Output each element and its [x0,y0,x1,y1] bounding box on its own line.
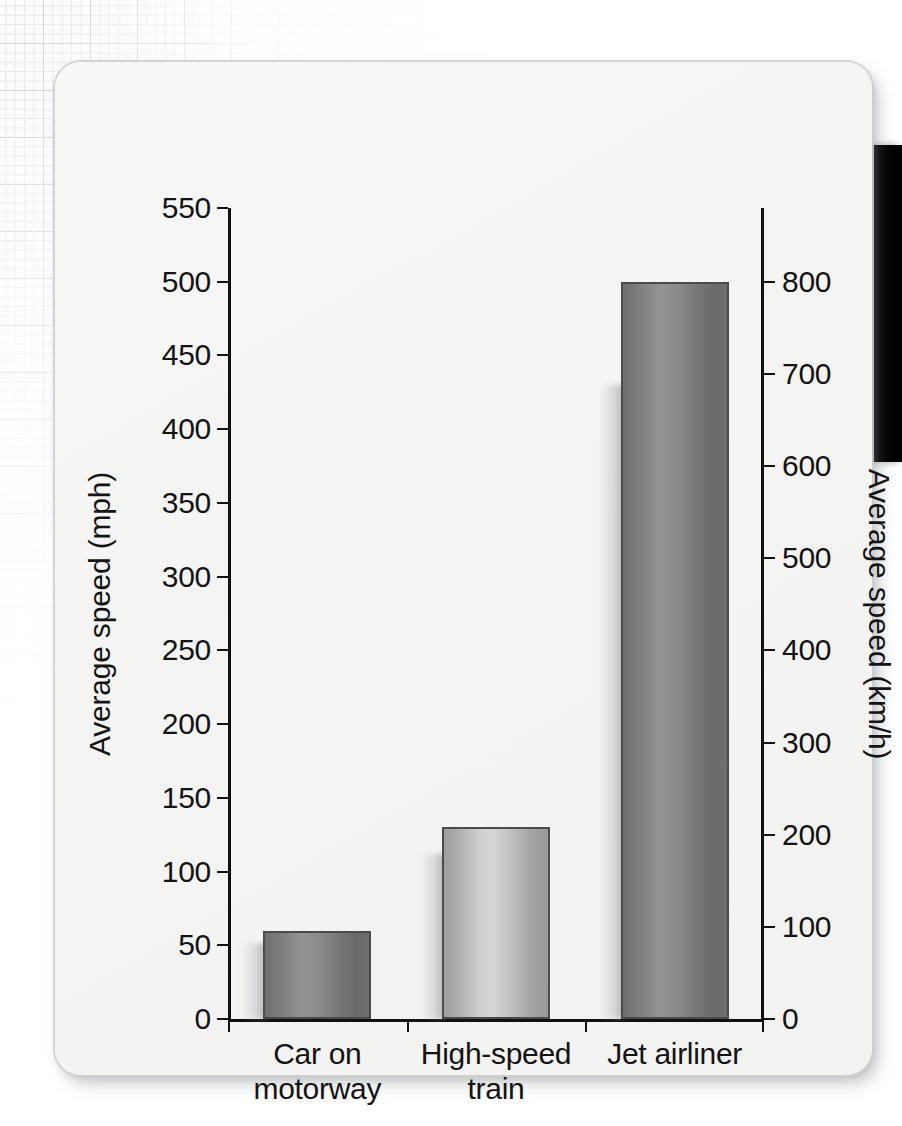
y-tick-label-right: 100 [782,910,831,944]
y-tick-label-left: 350 [162,486,211,520]
y-tick-label-left: 500 [162,265,211,299]
x-category-label-2: High-speedtrain [393,1036,600,1106]
x-tick [407,1019,409,1032]
y-tick-label-left: 300 [162,560,211,594]
y-tick-right [764,834,775,836]
y-tick-left [217,281,228,283]
bar-body [621,282,729,1019]
y-tick-label-left: 50 [178,928,211,962]
y-tick-right [764,1018,775,1020]
bar-3[interactable] [621,282,729,1019]
x-tick [762,1019,764,1032]
y-tick-left [217,944,228,946]
x-tick [585,1019,587,1032]
y-tick-label-right: 200 [782,818,831,852]
y-tick-label-left: 250 [162,633,211,667]
bar-body [442,827,550,1019]
y-tick-left [217,207,228,209]
y-tick-left [217,649,228,651]
y-tick-left [217,1018,228,1020]
x-axis-line [228,1019,764,1022]
y-tick-left [217,354,228,356]
y-tick-label-left: 100 [162,855,211,889]
y-axis-left-line [228,208,231,1021]
x-category-label-line: train [393,1071,600,1106]
y-tick-right [764,557,775,559]
y-tick-right [764,742,775,744]
x-category-label-3: Jet airliner [571,1036,778,1071]
y-tick-label-left: 400 [162,412,211,446]
plot-area: 050100150200250300350400450500550 010020… [228,208,764,1021]
x-category-label-line: Jet airliner [571,1036,778,1071]
x-category-label-line: motorway [214,1071,421,1106]
y-tick-left [217,723,228,725]
y-tick-label-right: 700 [782,357,831,391]
y-tick-right [764,649,775,651]
y-tick-label-right: 600 [782,449,831,483]
y-tick-right [764,465,775,467]
bar-body [263,931,371,1019]
x-category-label-line: Car on [214,1036,421,1071]
y-tick-label-left: 150 [162,781,211,815]
y-tick-label-right: 400 [782,633,831,667]
y-tick-label-right: 800 [782,265,831,299]
y-tick-right [764,373,775,375]
bar-2[interactable] [442,827,550,1019]
y-tick-left [217,871,228,873]
y-tick-label-right: 500 [782,541,831,575]
y-tick-right [764,926,775,928]
black-edge-block [872,145,902,462]
y-tick-left [217,576,228,578]
y-tick-label-left: 200 [162,707,211,741]
bar-1[interactable] [263,931,371,1019]
y-axis-right-title: Average speed (km/h) [862,469,896,760]
y-axis-left-title: Average speed (mph) [83,472,117,756]
x-category-label-line: High-speed [393,1036,600,1071]
y-tick-left [217,428,228,430]
y-tick-label-left: 550 [162,191,211,225]
y-axis-right-line [761,208,764,1021]
x-category-label-1: Car onmotorway [214,1036,421,1106]
y-tick-label-left: 0 [195,1002,211,1036]
y-tick-left [217,502,228,504]
y-tick-label-right: 300 [782,726,831,760]
y-tick-right [764,281,775,283]
x-tick [228,1019,230,1032]
y-tick-left [217,797,228,799]
chart-card: 050100150200250300350400450500550 010020… [55,62,872,1075]
y-tick-label-left: 450 [162,338,211,372]
y-tick-label-right: 0 [782,1002,798,1036]
